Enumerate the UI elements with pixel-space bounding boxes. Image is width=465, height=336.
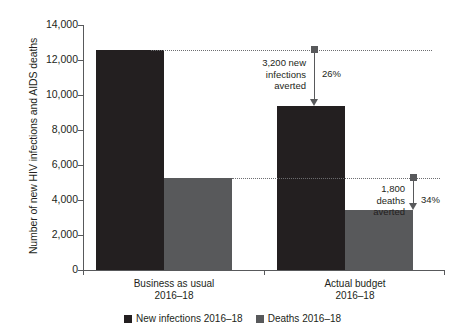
x-tick-mark-right <box>444 270 445 275</box>
bar-deaths-business-as-usual <box>164 178 232 270</box>
chart-container: Number of new HIV infections and AIDS de… <box>0 0 465 336</box>
y-tick-label-0: 0 <box>18 263 78 275</box>
bar-new-infections-business-as-usual <box>96 50 164 271</box>
arrow-head-deaths <box>409 203 417 210</box>
marker-new-infections-baseline <box>311 46 318 53</box>
legend-item-new-infections: New infections 2016–18 <box>124 313 243 324</box>
legend-label-deaths: Deaths 2016–18 <box>268 313 341 324</box>
y-tick-label-4000: 4,000 <box>18 193 78 205</box>
legend-item-deaths: Deaths 2016–18 <box>256 313 341 324</box>
y-tick-label-8000: 8,000 <box>18 123 78 135</box>
category-label-line-1: Actual budget <box>324 278 385 289</box>
annotation-line-1: 1,800 <box>381 183 405 194</box>
legend-swatch-icon-deaths <box>256 315 264 323</box>
arrow-shaft-deaths <box>413 181 414 203</box>
chart-legend: New infections 2016–18 Deaths 2016–18 <box>0 313 465 324</box>
annotation-new-infections-averted: 3,200 new infections averted <box>198 57 306 92</box>
x-tick-mark-middle <box>264 270 265 275</box>
category-label-line-1: Business as usual <box>134 278 215 289</box>
category-label-line-2: 2016–18 <box>155 290 194 301</box>
reference-line-deaths <box>232 178 440 179</box>
x-category-label-business-as-usual: Business as usual 2016–18 <box>93 278 255 302</box>
y-tick-label-14000: 14,000 <box>18 18 78 30</box>
annotation-line-3: averted <box>373 206 405 217</box>
annotation-line-3: averted <box>274 80 306 91</box>
arrow-head-new-infections <box>310 99 318 106</box>
legend-label-new-infections: New infections 2016–18 <box>136 313 243 324</box>
annotation-line-2: deaths <box>376 195 405 206</box>
annotation-deaths-averted: 1,800 deaths averted <box>298 183 405 218</box>
annotation-line-2: infections <box>266 69 306 80</box>
y-tick-label-12000: 12,000 <box>18 53 78 65</box>
category-label-line-2: 2016–18 <box>336 290 375 301</box>
y-tick-label-10000: 10,000 <box>18 88 78 100</box>
annotation-line-1: 3,200 new <box>262 57 306 68</box>
reference-line-new-infections <box>151 50 432 51</box>
bar-deaths-actual-budget <box>345 210 413 270</box>
x-tick-mark-left <box>83 270 84 275</box>
legend-swatch-icon-new-infections <box>124 315 132 323</box>
annotation-deaths-percent: 34% <box>421 194 440 205</box>
arrow-shaft-new-infections <box>314 53 315 99</box>
x-category-label-actual-budget: Actual budget 2016–18 <box>274 278 436 302</box>
y-tick-label-6000: 6,000 <box>18 158 78 170</box>
annotation-new-infections-percent: 26% <box>322 68 341 79</box>
marker-deaths-baseline <box>410 174 417 181</box>
y-tick-label-2000: 2,000 <box>18 228 78 240</box>
